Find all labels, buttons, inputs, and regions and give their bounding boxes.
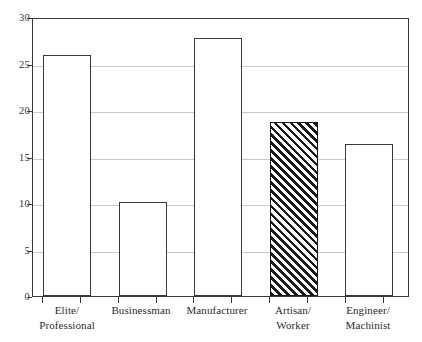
xlabel-line1: Businessman [111, 304, 170, 316]
plot-area [32, 18, 409, 297]
bar-artisan-worker [270, 122, 318, 296]
bar-elite-professional [43, 55, 91, 296]
bar-businessman [119, 202, 167, 296]
xlabel-line1: Engineer/ [346, 304, 390, 316]
xlabel-line1: Artisan/ [275, 304, 311, 316]
xlabel-engineer-machinist: Engineer/ Machinist [319, 303, 417, 332]
bar-chart: 30 25 20 15 10 5 0 Elite/ Professiona [0, 0, 422, 342]
xlabel-line1: Manufacturer [186, 304, 247, 316]
bar-manufacturer [194, 38, 242, 296]
xlabel-line2: Machinist [319, 318, 417, 333]
xlabel-line2: Professional [18, 318, 116, 333]
xlabel-line1: Elite/ [55, 304, 79, 316]
bar-engineer-machinist [345, 144, 393, 296]
ytick-mark-0 [27, 297, 32, 298]
